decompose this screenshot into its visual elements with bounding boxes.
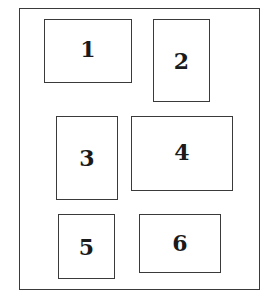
panel-label: 6 [172,232,187,254]
panel-3: 3 [56,116,118,200]
panel-6: 6 [139,214,221,273]
panel-1: 1 [44,19,132,83]
panel-4: 4 [131,116,233,191]
panel-label: 2 [174,50,189,72]
panel-label: 1 [80,38,95,60]
panel-label: 3 [79,147,94,169]
panel-label: 4 [174,141,189,163]
panel-5: 5 [58,214,115,279]
panel-label: 5 [79,236,94,258]
panel-2: 2 [153,19,210,102]
